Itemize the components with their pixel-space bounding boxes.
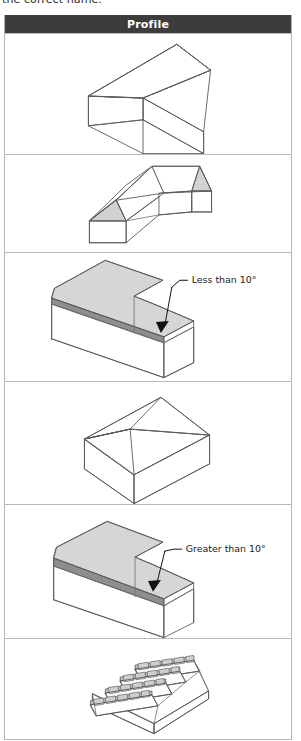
table-row [5, 33, 291, 154]
cut-off-caption: the correct name. [0, 0, 301, 14]
mono-pitch-roof-illustration: Greater than 10° [5, 505, 291, 638]
gable-roof-illustration [5, 34, 291, 154]
table-row [5, 154, 291, 252]
annotation-less-than-10: Less than 10° [192, 274, 257, 285]
l-shaped-hipped-roof-illustration [5, 155, 291, 252]
profile-table: Profile [4, 15, 292, 740]
annotation-greater-than-10: Greater than 10° [186, 543, 266, 554]
table-row: Greater than 10° [5, 504, 291, 638]
table-header-cell: Profile [5, 15, 291, 33]
table-header-label: Profile [127, 18, 169, 31]
sawtooth-roof-illustration [5, 639, 291, 739]
caption-text: the correct name. [2, 0, 102, 6]
hipped-roof-illustration [5, 382, 291, 504]
table-row [5, 381, 291, 504]
table-row: Less than 10° [5, 252, 291, 381]
flat-roof-illustration: Less than 10° [5, 253, 291, 381]
table-row [5, 638, 291, 739]
